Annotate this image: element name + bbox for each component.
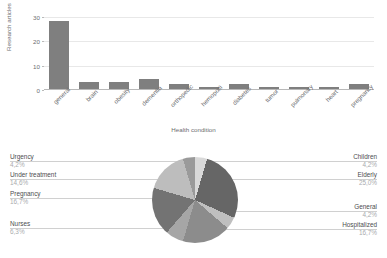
bar-slot: orthopedic [164, 12, 194, 89]
pie-chart: Urgency4,2%Under treatment14,6%Pregnancy… [0, 145, 387, 258]
bar-slot: pregnancy [344, 12, 374, 89]
pie-leader-line [10, 161, 180, 162]
y-tick-mark [42, 90, 44, 91]
bar-slot: hemopoiti [194, 12, 224, 89]
bar [49, 21, 69, 89]
bar-slot: tumor [254, 12, 284, 89]
x-tick-label: brain [84, 88, 99, 103]
pie-slice-name: Hospitalized [342, 221, 377, 229]
pie-slice-percent: 16,7% [342, 229, 377, 237]
pie-slice-label: Under treatment14,6% [10, 171, 56, 187]
pie-slice-name: Nurses [10, 220, 30, 228]
pie-slice-label: Elderly25,0% [357, 171, 377, 187]
x-tick-label: heart [324, 88, 339, 103]
y-tick-label: 10 [33, 62, 40, 69]
bar-slot: obesity [104, 12, 134, 89]
pie-slice-name: Children [353, 153, 377, 161]
bar-chart-x-axis-title: Health condition [0, 126, 387, 133]
pie-leader-line [10, 228, 180, 229]
bar-chart-bars: generalbrainobesitydementiaorthopedichem… [44, 12, 374, 89]
pie-slice-percent: 25,0% [357, 179, 377, 187]
bar-slot: general [44, 12, 74, 89]
pie-slice-label: General4,2% [354, 203, 377, 219]
bar-slot: pulmonary [284, 12, 314, 89]
bar-chart-plot-area: 0102030 generalbrainobesitydementiaortho… [44, 12, 374, 90]
pie-slice-label: Children4,2% [353, 153, 377, 169]
bar [319, 87, 339, 89]
pie-slice-percent: 16,7% [10, 198, 41, 206]
pie-slice-percent: 4,2% [354, 211, 377, 219]
bar-chart-y-axis-title: Research articles [5, 3, 12, 51]
pie-slice-percent: 4,2% [10, 161, 34, 169]
pie-slice-name: Pregnancy [10, 190, 41, 198]
bar-slot: dementia [134, 12, 164, 89]
pie-slice-label: Pregnancy16,7% [10, 190, 41, 206]
pie-slice-name: Urgency [10, 153, 34, 161]
bar-chart: Research articles 0102030 generalbrainob… [0, 0, 387, 140]
pie-slice-percent: 14,6% [10, 179, 56, 187]
pie-slice-name: General [354, 203, 377, 211]
pie-slice-percent: 4,2% [353, 161, 377, 169]
y-tick-label: 30 [33, 13, 40, 20]
y-tick-label: 0 [37, 87, 40, 94]
bar-slot: brain [74, 12, 104, 89]
pie-slice-label: Hospitalized16,7% [342, 221, 377, 237]
bar [79, 82, 99, 89]
pie-slice-name: Under treatment [10, 171, 56, 179]
pie-slice-name: Elderly [357, 171, 377, 179]
pie-disc [152, 157, 238, 243]
bar-slot: heart [314, 12, 344, 89]
pie-slice-label: Nurses6,3% [10, 220, 30, 236]
y-tick-label: 20 [33, 38, 40, 45]
pie-slice-percent: 6,3% [10, 228, 30, 236]
pie-leader-line [202, 161, 377, 162]
bar-slot: diabetes [224, 12, 254, 89]
pie-slice-label: Urgency4,2% [10, 153, 34, 169]
